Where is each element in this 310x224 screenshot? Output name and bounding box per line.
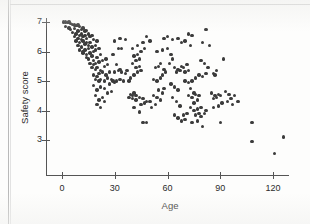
scatter-point bbox=[97, 98, 100, 101]
scatter-point bbox=[106, 76, 109, 79]
scatter-point bbox=[127, 79, 130, 82]
y-tick-mark bbox=[42, 140, 50, 141]
scatter-point bbox=[190, 34, 193, 37]
scatter-point bbox=[189, 87, 192, 90]
scatter-point bbox=[166, 47, 169, 50]
scatter-point bbox=[131, 47, 134, 50]
x-tick-label: 120 bbox=[261, 184, 285, 193]
scatter-point bbox=[143, 101, 146, 104]
scatter-point bbox=[141, 41, 144, 44]
y-tick-mark bbox=[42, 81, 50, 82]
x-axis-label: Age bbox=[110, 200, 230, 211]
scatter-point bbox=[206, 66, 209, 69]
scatter-point bbox=[168, 62, 171, 65]
scatter-point bbox=[113, 70, 116, 73]
scatter-plot: 34567 0306090120 Safety score Age bbox=[0, 0, 310, 224]
scatter-point bbox=[176, 88, 179, 91]
scatter-point bbox=[212, 106, 215, 109]
scatter-point bbox=[132, 106, 135, 109]
scatter-point bbox=[118, 68, 121, 71]
x-tick-mark bbox=[220, 172, 221, 179]
scatter-point bbox=[88, 41, 91, 44]
scatter-point bbox=[189, 44, 192, 47]
scatter-point bbox=[95, 88, 98, 91]
scatter-point bbox=[171, 57, 174, 60]
scatter-point bbox=[199, 115, 202, 118]
scatter-point bbox=[155, 50, 158, 53]
scatter-point bbox=[201, 75, 204, 78]
scatter-point bbox=[201, 125, 204, 128]
y-axis-line bbox=[46, 18, 47, 176]
scatter-point bbox=[176, 37, 179, 40]
x-tick-mark bbox=[168, 172, 169, 179]
scatter-point bbox=[250, 121, 253, 124]
scatter-point bbox=[282, 135, 285, 138]
scatter-point bbox=[159, 76, 162, 79]
scatter-point bbox=[148, 100, 151, 103]
scatter-point bbox=[227, 93, 230, 96]
y-tick-label: 5 bbox=[28, 76, 42, 85]
scatter-point bbox=[233, 94, 236, 97]
scatter-point bbox=[143, 47, 146, 50]
scatter-point bbox=[154, 103, 157, 106]
scatter-point bbox=[169, 53, 172, 56]
y-tick-label: 7 bbox=[28, 17, 42, 26]
scatter-point bbox=[161, 73, 164, 76]
x-tick-label: 0 bbox=[50, 184, 74, 193]
y-tick-label: 6 bbox=[28, 47, 42, 56]
scatter-point bbox=[187, 69, 190, 72]
scatter-point bbox=[199, 59, 202, 62]
scatter-point bbox=[162, 87, 165, 90]
y-tick-label: 4 bbox=[28, 106, 42, 115]
scatter-point bbox=[159, 62, 162, 65]
scatter-point bbox=[131, 62, 134, 65]
scatter-point bbox=[106, 63, 109, 66]
scatter-point bbox=[175, 100, 178, 103]
x-tick-label: 30 bbox=[103, 184, 127, 193]
scatter-point bbox=[138, 65, 141, 68]
scatter-point bbox=[101, 96, 104, 99]
x-tick-mark bbox=[62, 172, 63, 179]
scatter-point bbox=[76, 29, 79, 32]
scatter-point bbox=[178, 104, 181, 107]
scatter-point bbox=[190, 79, 193, 82]
scatter-point bbox=[194, 113, 197, 116]
scatter-point bbox=[97, 47, 100, 50]
y-axis-label: Safety score bbox=[19, 53, 30, 143]
scatter-point bbox=[217, 104, 220, 107]
y-tick-mark bbox=[42, 111, 50, 112]
scatter-point bbox=[203, 62, 206, 65]
scatter-point bbox=[178, 69, 181, 72]
scatter-point bbox=[215, 69, 218, 72]
scatter-point bbox=[87, 57, 90, 60]
scatter-point bbox=[115, 63, 118, 66]
scatter-point bbox=[204, 72, 207, 75]
scatter-point bbox=[157, 65, 160, 68]
scatter-point bbox=[220, 101, 223, 104]
scatter-point bbox=[92, 84, 95, 87]
scatter-point bbox=[155, 79, 158, 82]
scatter-point bbox=[159, 98, 162, 101]
scatter-point bbox=[136, 53, 139, 56]
scatter-point bbox=[110, 90, 113, 93]
scatter-point bbox=[148, 39, 151, 42]
scatter-point bbox=[229, 97, 232, 100]
x-tick-label: 60 bbox=[156, 184, 180, 193]
scatter-point bbox=[250, 140, 253, 143]
scatter-point bbox=[164, 70, 167, 73]
scatter-point bbox=[197, 94, 200, 97]
scatter-point bbox=[99, 106, 102, 109]
scatter-point bbox=[161, 91, 164, 94]
scatter-point bbox=[215, 96, 218, 99]
scatter-point bbox=[226, 100, 229, 103]
scatter-point bbox=[129, 76, 132, 79]
scatter-point bbox=[94, 94, 97, 97]
scatter-point bbox=[139, 50, 142, 53]
scatter-point bbox=[103, 87, 106, 90]
scatter-point bbox=[190, 96, 193, 99]
scatter-point bbox=[95, 56, 98, 59]
scatter-point bbox=[150, 106, 153, 109]
scatter-point bbox=[113, 39, 116, 42]
scatter-point bbox=[122, 79, 125, 82]
scatter-point bbox=[196, 98, 199, 101]
